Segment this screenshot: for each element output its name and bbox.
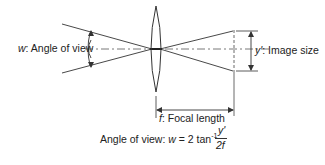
ray-top-right bbox=[160, 31, 233, 49]
angle-var: w bbox=[18, 42, 26, 54]
formula-equals: = 2 tan bbox=[176, 133, 211, 145]
angle-of-view-label: w: Angle of view bbox=[18, 42, 93, 54]
focal-length-label: f: Focal length bbox=[159, 112, 225, 124]
image-text: : Image size bbox=[262, 44, 319, 56]
angle-formula: Angle of view: w = 2 tan-1 bbox=[100, 132, 217, 145]
focal-text: : Focal length bbox=[162, 112, 225, 124]
formula-prefix: Angle of view: bbox=[100, 133, 168, 145]
formula-lhs: w bbox=[168, 133, 176, 145]
formula-denominator: 2f bbox=[216, 139, 225, 151]
formula-numerator: y' bbox=[218, 124, 225, 136]
angle-text: : Angle of view bbox=[26, 42, 94, 54]
ray-bottom-right bbox=[160, 49, 233, 71]
image-size-label: y': Image size bbox=[255, 44, 319, 56]
